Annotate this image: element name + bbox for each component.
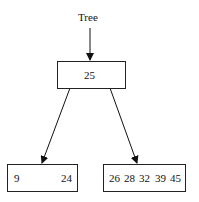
edge-left-child-arrow (42, 88, 70, 163)
right-key-0: 26 (109, 172, 120, 184)
right-key-1: 28 (124, 172, 135, 184)
root-key: 25 (84, 69, 95, 81)
root-node: 25 (57, 61, 126, 89)
right-key-2: 32 (139, 172, 150, 184)
right-child-node: 26 28 32 39 45 (103, 164, 186, 192)
left-key-1: 24 (61, 172, 72, 184)
right-key-3: 39 (155, 172, 166, 184)
edge-right-child-arrow (110, 88, 137, 163)
tree-label: Tree (78, 11, 98, 23)
left-child-node: 9 24 (7, 164, 78, 192)
left-key-0: 9 (14, 172, 20, 184)
right-key-4: 45 (170, 172, 181, 184)
